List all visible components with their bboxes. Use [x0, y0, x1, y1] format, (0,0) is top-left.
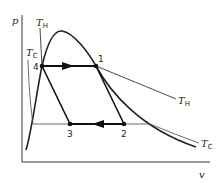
point-label-1: 1	[98, 54, 104, 64]
state-point-3	[68, 122, 73, 127]
point-label-2: 2	[121, 129, 127, 139]
isotherm-th	[40, 28, 176, 99]
state-point-2	[122, 122, 127, 127]
point-label-4: 4	[33, 62, 39, 72]
process-3-4	[42, 66, 70, 124]
point-label-3: 3	[67, 129, 73, 139]
label-tc-left: TC	[26, 47, 38, 60]
x-axis-label: v	[199, 169, 205, 180]
arrow-left-icon	[92, 120, 104, 128]
y-axis-label: p	[12, 15, 19, 26]
pv-diagram: p v 1 2 3 4 TH TC TH TC	[0, 0, 224, 183]
arrow-right-icon	[62, 62, 74, 70]
label-th-left: TH	[36, 17, 48, 30]
label-th-right: TH	[178, 95, 190, 108]
state-point-1	[94, 64, 99, 69]
state-point-4	[40, 64, 45, 69]
process-1-2	[96, 66, 124, 124]
label-tc-right: TC	[201, 138, 213, 151]
